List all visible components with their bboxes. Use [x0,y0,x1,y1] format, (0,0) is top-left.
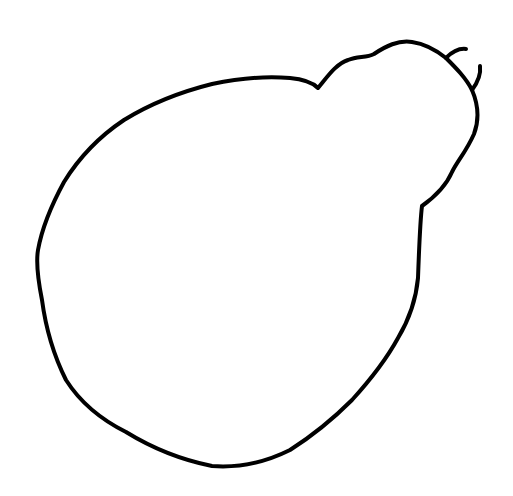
stem-curl-left [446,49,466,58]
drawing-canvas [0,0,513,496]
pear-sketch [0,0,513,496]
pear-outline [37,42,477,467]
stem-curl-right [472,66,480,90]
